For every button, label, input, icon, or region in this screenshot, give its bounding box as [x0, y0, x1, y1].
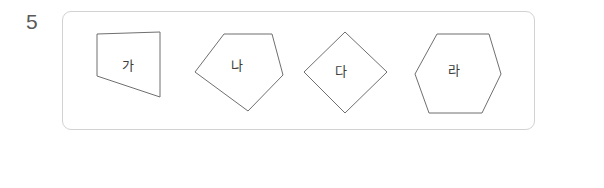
figure-quadrilateral[interactable]: 가	[89, 12, 197, 131]
figure-label-da: 다	[335, 65, 347, 78]
question-block: 5 가 나 다	[0, 0, 604, 188]
figure-pentagon[interactable]: 나	[191, 12, 286, 131]
quadrilateral-shape-icon	[89, 12, 197, 131]
figure-label-ga: 가	[122, 59, 134, 72]
figure-label-ra: 라	[448, 64, 460, 77]
figure-label-na: 나	[231, 59, 243, 72]
figure-diamond[interactable]: 다	[301, 12, 393, 131]
figure-panel: 가 나 다 라	[62, 11, 535, 130]
figure-hexagon[interactable]: 라	[411, 12, 506, 131]
question-number: 5	[26, 10, 38, 34]
figure-row: 가 나 다 라	[63, 12, 536, 131]
diamond-shape-icon	[301, 12, 393, 131]
answer-blank[interactable]: ( )	[0, 145, 604, 185]
